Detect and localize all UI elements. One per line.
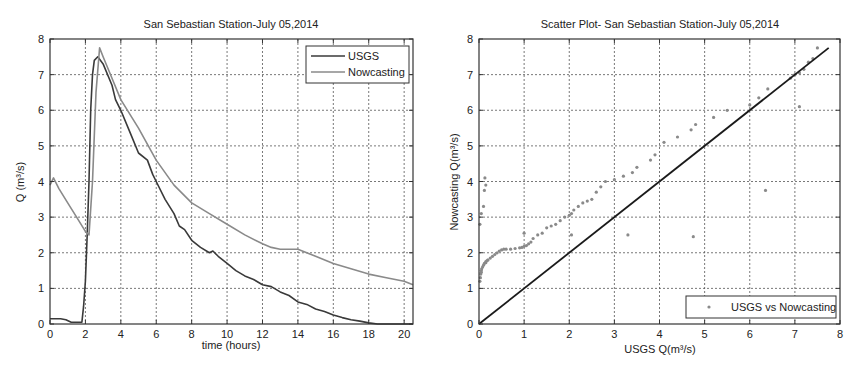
- scatter-point: [676, 135, 679, 138]
- scatter-point: [550, 224, 553, 227]
- scatter-point: [599, 185, 602, 188]
- scatter-point: [523, 232, 526, 235]
- scatter-point: [662, 141, 665, 144]
- scatter-point: [505, 248, 508, 251]
- scatter-legend: USGS vs Nowcasting: [686, 296, 836, 318]
- y-tick-label: 2: [38, 247, 44, 259]
- scatter-point: [694, 123, 697, 126]
- scatter-point: [692, 235, 695, 238]
- scatter-ylabel: Nowcasting Q(m³/s): [448, 133, 460, 230]
- scatter-point: [748, 103, 751, 106]
- scatter-xlabel: USGS Q(m³/s): [624, 343, 696, 355]
- scatter-point: [690, 128, 693, 131]
- y-tick-label: 1: [467, 282, 473, 294]
- x-tick-label: 2: [82, 328, 88, 340]
- y-tick-label: 4: [38, 176, 44, 188]
- hydrograph-title: San Sebastian Station-July 05,2014: [144, 18, 319, 30]
- scatter-point: [757, 96, 760, 99]
- scatter-point: [536, 233, 539, 236]
- identity-reference-line: [479, 48, 829, 324]
- x-tick-label: 1: [521, 328, 527, 340]
- scatter-point: [483, 189, 486, 192]
- y-tick-label: 2: [467, 247, 473, 259]
- scatter-point: [482, 205, 485, 208]
- x-tick-label: 0: [476, 328, 482, 340]
- hydrograph-xlabel: time (hours): [202, 339, 261, 351]
- x-tick-label: 18: [363, 328, 375, 340]
- scatter-point: [586, 200, 589, 203]
- figure: San Sebastian Station-July 05,2014 02468…: [0, 0, 865, 370]
- y-tick-label: 7: [38, 69, 44, 81]
- legend-nowcasting-label: Nowcasting: [348, 66, 405, 78]
- scatter-point: [816, 46, 819, 49]
- x-tick-label: 8: [837, 328, 843, 340]
- x-tick-label: 7: [792, 328, 798, 340]
- scatter-point: [509, 248, 512, 251]
- scatter-point: [480, 212, 483, 215]
- y-tick-label: 0: [38, 318, 44, 330]
- scatter-tick-labels: 012345678012345678: [467, 33, 843, 340]
- scatter-point: [635, 166, 638, 169]
- y-tick-label: 7: [467, 69, 473, 81]
- scatter-point: [798, 105, 801, 108]
- legend-usgs-label: USGS: [348, 50, 379, 62]
- scatter-point: [766, 87, 769, 90]
- y-tick-label: 4: [467, 176, 473, 188]
- x-tick-label: 5: [702, 328, 708, 340]
- scatter-point: [653, 153, 656, 156]
- scatter-points: [478, 46, 819, 283]
- scatter-point: [764, 189, 767, 192]
- y-tick-label: 8: [467, 33, 473, 45]
- x-tick-label: 8: [189, 328, 195, 340]
- y-tick-label: 3: [467, 211, 473, 223]
- scatter-point: [541, 232, 544, 235]
- x-tick-label: 4: [118, 328, 124, 340]
- hydrograph-chart: San Sebastian Station-July 05,2014 02468…: [14, 18, 413, 351]
- x-tick-label: 6: [153, 328, 159, 340]
- scatter-point: [595, 191, 598, 194]
- scatter-point: [590, 198, 593, 201]
- x-tick-label: 3: [611, 328, 617, 340]
- y-tick-label: 6: [467, 104, 473, 116]
- y-tick-label: 1: [38, 282, 44, 294]
- x-tick-label: 20: [398, 328, 410, 340]
- x-tick-label: 0: [47, 328, 53, 340]
- scatter-point: [613, 178, 616, 181]
- legend-scatter-label: USGS vs Nowcasting: [731, 301, 836, 313]
- y-tick-label: 0: [467, 318, 473, 330]
- scatter-point: [514, 247, 517, 250]
- scatter-point: [563, 216, 566, 219]
- x-tick-label: 4: [656, 328, 662, 340]
- scatter-point: [570, 212, 573, 215]
- hydrograph-series: [50, 48, 413, 324]
- series-line-usgs: [50, 57, 413, 324]
- y-tick-label: 3: [38, 211, 44, 223]
- legend-scatter-marker: [707, 305, 710, 308]
- scatter-title: Scatter Plot- San Sebastian Station-July…: [541, 18, 779, 30]
- hydrograph-legend: USGS Nowcasting: [306, 46, 409, 83]
- scatter-point: [545, 226, 548, 229]
- scatter-point: [726, 109, 729, 112]
- scatter-point: [532, 237, 535, 240]
- scatter-point: [572, 208, 575, 211]
- scatter-point: [622, 175, 625, 178]
- scatter-point: [577, 205, 580, 208]
- y-tick-label: 8: [38, 33, 44, 45]
- scatter-point: [631, 171, 634, 174]
- figure-canvas: San Sebastian Station-July 05,2014 02468…: [0, 0, 865, 370]
- scatter-point: [529, 241, 532, 244]
- scatter-point: [712, 116, 715, 119]
- scatter-point: [570, 233, 573, 236]
- scatter-point: [604, 180, 607, 183]
- x-tick-label: 16: [327, 328, 339, 340]
- x-tick-label: 14: [292, 328, 304, 340]
- scatter-point: [484, 184, 487, 187]
- scatter-chart: Scatter Plot- San Sebastian Station-July…: [448, 18, 843, 355]
- scatter-point: [581, 201, 584, 204]
- y-tick-label: 6: [38, 104, 44, 116]
- scatter-point: [554, 223, 557, 226]
- y-tick-label: 5: [38, 140, 44, 152]
- hydrograph-ylabel: Q (m³/s): [14, 162, 26, 202]
- scatter-point: [626, 233, 629, 236]
- scatter-point: [649, 159, 652, 162]
